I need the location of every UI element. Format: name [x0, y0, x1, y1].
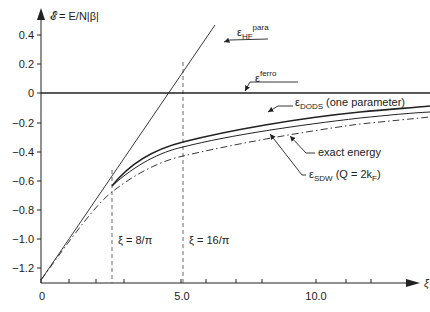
y-tick-label: 0	[28, 87, 34, 99]
label-exact: exact energy	[318, 146, 381, 158]
label-sdw: εSDW (Q = 2kF)	[309, 168, 381, 183]
label-hf-para: εHFpara	[237, 23, 269, 41]
x-tick-label: 10.0	[305, 290, 326, 302]
x-axis-arrow-icon	[406, 279, 420, 287]
y-axis: 𝓔 = E/N|β| 0.4 0.2 0 −0.2 −0.4 −0.6 −0.8…	[12, 8, 99, 283]
y-axis-label: 𝓔 = E/N|β|	[50, 10, 99, 22]
y-axis-arrow-icon	[37, 8, 45, 20]
reference-lines	[112, 62, 183, 283]
y-tick-label: −1.0	[12, 233, 34, 245]
series-sdw	[41, 117, 430, 280]
x-axis: ξ 0 5.0 10.0	[39, 277, 430, 302]
y-tick-label: −0.8	[12, 204, 34, 216]
energy-chart: 𝓔 = E/N|β| 0.4 0.2 0 −0.2 −0.4 −0.6 −0.8…	[0, 0, 430, 312]
x-tick-label: 5.0	[174, 290, 189, 302]
vline-16-over-pi-label: ξ = 16/π	[189, 234, 230, 246]
y-tick-label: −0.2	[12, 117, 34, 129]
series-dods	[112, 106, 430, 186]
y-tick-label: −0.4	[12, 146, 34, 158]
x-axis-label: ξ	[424, 277, 430, 290]
vline-8-over-pi-label: ξ = 8/π	[118, 234, 153, 246]
y-tick-label: −1.2	[12, 262, 34, 274]
x-tick-label: 0	[39, 290, 45, 302]
y-tick-label: −0.6	[12, 175, 34, 187]
y-tick-label: 0.4	[19, 29, 34, 41]
y-tick-label: 0.2	[19, 58, 34, 70]
